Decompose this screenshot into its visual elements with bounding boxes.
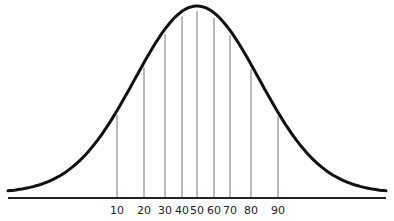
percentile-labels: 102030405060708090 bbox=[110, 204, 285, 217]
tick-label-40: 40 bbox=[175, 204, 189, 217]
tick-label-20: 20 bbox=[137, 204, 151, 217]
tick-label-90: 90 bbox=[271, 204, 285, 217]
percentile-lines bbox=[117, 11, 278, 198]
bell-curve-chart: 102030405060708090 bbox=[0, 0, 394, 221]
tick-label-60: 60 bbox=[207, 204, 221, 217]
tick-label-30: 30 bbox=[158, 204, 172, 217]
tick-label-10: 10 bbox=[110, 204, 124, 217]
tick-label-70: 70 bbox=[223, 204, 237, 217]
tick-label-50: 50 bbox=[190, 204, 204, 217]
chart-canvas: 102030405060708090 bbox=[0, 0, 394, 221]
tick-label-80: 80 bbox=[244, 204, 258, 217]
